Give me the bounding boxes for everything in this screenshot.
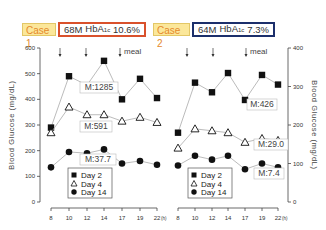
- x-tick-label: 22: [275, 215, 282, 221]
- x-tick-label: 17: [242, 215, 249, 221]
- x-tick-label: 22: [154, 215, 161, 221]
- meal-arrow-icon: [245, 54, 248, 57]
- mean-annotation: M:29.0: [258, 139, 284, 149]
- meal-arrow-icon: [85, 54, 88, 57]
- mean-annotation: M:426: [250, 99, 274, 109]
- circle-marker-icon: [259, 160, 266, 167]
- circle-marker-icon: [48, 164, 55, 171]
- circle-marker-icon: [137, 158, 144, 165]
- y-tick-label: 400: [25, 96, 36, 102]
- chart-case1: 0100200300400500600Blood Glucose (mg/dL)…: [7, 45, 167, 221]
- y-tick-label: 200: [25, 148, 36, 154]
- x-tick-label: 14: [101, 215, 108, 221]
- square-marker-icon: [275, 81, 281, 87]
- x-tick-label: 8: [176, 215, 180, 221]
- y-axis-label: Blood Glucose (mg/dL): [310, 80, 319, 169]
- glucose-charts: 0100200300400500600Blood Glucose (mg/dL)…: [0, 0, 326, 230]
- legend-label: Day 14: [201, 188, 227, 197]
- y-tick-label: 0: [32, 199, 36, 205]
- meal-arrow-icon: [212, 54, 215, 57]
- x-tick-label: 12: [84, 215, 91, 221]
- triangle-marker-icon: [191, 125, 199, 132]
- meal-label: meal: [250, 47, 268, 56]
- y-tick-label: 100: [25, 173, 36, 179]
- y-tick-label: 500: [25, 71, 36, 77]
- circle-marker-icon: [119, 160, 126, 167]
- square-marker-icon: [259, 72, 265, 78]
- circle-marker-icon: [154, 161, 161, 168]
- meal-arrow-icon: [59, 54, 62, 57]
- square-marker-icon: [101, 58, 107, 64]
- square-marker-icon: [192, 79, 198, 85]
- chart-case2: 0100200300400Blood Glucose (mg/dL)810121…: [174, 45, 319, 221]
- legend-square-icon: [192, 173, 197, 178]
- circle-marker-icon: [66, 149, 73, 156]
- x-unit-label: (h): [282, 216, 288, 221]
- circle-marker-icon: [175, 162, 182, 169]
- circle-marker-icon: [209, 156, 216, 163]
- circle-marker-icon: [242, 166, 249, 173]
- circle-marker-icon: [192, 153, 199, 160]
- meal-arrow-icon: [119, 54, 122, 57]
- legend-circle-icon: [71, 189, 76, 194]
- y-tick-label: 300: [25, 122, 36, 128]
- circle-marker-icon: [225, 153, 232, 160]
- square-marker-icon: [137, 76, 143, 82]
- meal-label: meal: [124, 47, 142, 56]
- x-tick-label: 19: [137, 215, 144, 221]
- x-tick-label: 8: [49, 215, 53, 221]
- triangle-marker-icon: [65, 103, 73, 110]
- x-unit-label: (h): [161, 216, 167, 221]
- x-tick-label: 10: [192, 215, 199, 221]
- triangle-marker-icon: [100, 111, 108, 118]
- x-tick-label: 19: [259, 215, 266, 221]
- legend-circle-icon: [191, 189, 196, 194]
- y-tick-label: 300: [293, 84, 304, 90]
- square-marker-icon: [119, 96, 125, 102]
- legend-square-icon: [72, 173, 77, 178]
- y-tick-label: 600: [25, 45, 36, 51]
- y-tick-label: 200: [293, 122, 304, 128]
- square-marker-icon: [225, 70, 231, 76]
- mean-annotation: M:37.7: [85, 154, 111, 164]
- y-tick-label: 400: [293, 45, 304, 51]
- y-tick-label: 0: [293, 199, 297, 205]
- y-tick-label: 100: [293, 161, 304, 167]
- mean-annotation: M:1285: [85, 82, 114, 92]
- square-marker-icon: [209, 89, 215, 95]
- meal-arrow-icon: [186, 54, 189, 57]
- triangle-marker-icon: [83, 111, 91, 118]
- x-tick-label: 10: [66, 215, 73, 221]
- x-tick-label: 14: [225, 215, 232, 221]
- circle-marker-icon: [101, 146, 108, 153]
- mean-annotation: M:591: [84, 121, 108, 131]
- square-marker-icon: [175, 130, 181, 136]
- mean-annotation: M:7.4: [258, 168, 280, 178]
- x-tick-label: 17: [119, 215, 126, 221]
- square-marker-icon: [154, 95, 160, 101]
- legend-label: Day 14: [81, 188, 107, 197]
- x-tick-label: 12: [209, 215, 216, 221]
- triangle-marker-icon: [136, 113, 144, 120]
- square-marker-icon: [66, 73, 72, 79]
- y-axis-label: Blood Glucose (mg/dL): [7, 80, 16, 169]
